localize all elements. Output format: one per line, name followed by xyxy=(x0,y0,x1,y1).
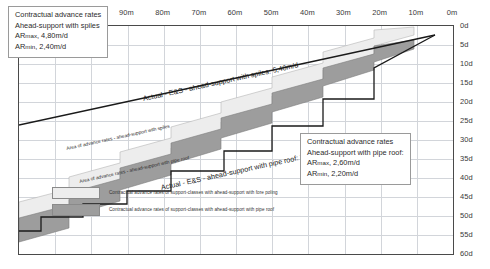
x-axis-tick: 40m xyxy=(300,8,315,17)
legend-swatch xyxy=(52,187,100,199)
y-axis-tick: 50d xyxy=(460,211,473,220)
armin-value: , 2,40m/d xyxy=(35,42,66,51)
y-axis-tick: 15d xyxy=(460,78,473,87)
y-axis-tick: 45d xyxy=(460,192,473,201)
armin-value: , 2,20m/d xyxy=(327,169,358,178)
info-box-piperoof-line1: Contractual advance rates xyxy=(307,137,404,148)
x-axis-tick: 50m xyxy=(264,8,279,17)
y-axis-tick: 30d xyxy=(460,135,473,144)
x-axis-tick: 60m xyxy=(228,8,243,17)
y-axis-tick: 10d xyxy=(460,59,473,68)
legend-swatch xyxy=(52,204,100,216)
legend-label: Contractual advance rates of support-cla… xyxy=(109,207,274,212)
info-box-piperoof-armax: ARmax, 2,60m/d xyxy=(307,158,404,169)
x-axis-tick: 30m xyxy=(336,8,351,17)
advance-rate-chart: 120m110m100m90m80m70m60m50m40m30m20m10m0… xyxy=(0,0,490,269)
x-axis-tick: 70m xyxy=(191,8,206,17)
info-box-spiles-armin: ARmin, 2,40m/d xyxy=(15,42,101,53)
y-axis-tick: 55d xyxy=(460,230,473,239)
legend-item: Contractual advance rates of support-cla… xyxy=(52,203,430,216)
armax-sub: max xyxy=(317,159,329,166)
armin-sub: min xyxy=(317,170,327,177)
info-box-spiles-line2: Ahead-support with spiles xyxy=(15,21,101,32)
legend: Contractual advance rates of support-cla… xyxy=(52,186,430,220)
legend-label: Contractual advance rates of support-cla… xyxy=(109,190,278,195)
x-axis-tick: 80m xyxy=(155,8,170,17)
x-axis-tick: 90m xyxy=(119,8,134,17)
y-axis-tick: 0d xyxy=(460,21,469,30)
y-axis-tick: 25d xyxy=(460,116,473,125)
y-axis-tick: 40d xyxy=(460,173,473,182)
info-box-spiles-armax: ARmax, 4,80m/d xyxy=(15,31,101,42)
y-axis-tick: 5d xyxy=(460,40,469,49)
armax-value: , 2,60m/d xyxy=(329,158,360,167)
x-axis-tick: 10m xyxy=(408,8,423,17)
info-box-piperoof-armin: ARmin, 2,20m/d xyxy=(307,169,404,180)
armax-value: , 4,80m/d xyxy=(37,31,68,40)
legend-item: Contractual advance rates of support-cla… xyxy=(52,186,430,199)
armax-sub: max xyxy=(25,32,37,39)
info-box-spiles: Contractual advance rates Ahead-support … xyxy=(8,6,108,58)
x-axis-tick: 0m xyxy=(447,8,458,17)
armin-sub: min xyxy=(25,43,35,50)
x-axis-tick: 20m xyxy=(372,8,387,17)
armax-prefix: AR xyxy=(307,158,317,167)
y-axis-tick: 20d xyxy=(460,97,473,106)
armax-prefix: AR xyxy=(15,31,25,40)
y-axis-tick: 35d xyxy=(460,154,473,163)
armin-prefix: AR xyxy=(15,42,25,51)
y-axis-tick: 60d xyxy=(460,249,473,258)
info-box-spiles-line1: Contractual advance rates xyxy=(15,10,101,21)
info-box-piperoof: Contractual advance rates Ahead-support … xyxy=(300,133,411,185)
info-box-piperoof-line2: Ahead-support with pipe roof: xyxy=(307,148,404,159)
armin-prefix: AR xyxy=(307,169,317,178)
